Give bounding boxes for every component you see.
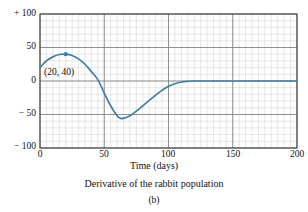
figure-panel: + 100 50 0 − 50 − 100 0 50 100 150 200 (… <box>0 0 308 212</box>
figure-subcaption: (b) <box>0 196 308 206</box>
x-tick-label-50: 50 <box>92 150 116 160</box>
x-tick-label-200: 200 <box>285 150 308 160</box>
x-tick-label-100: 100 <box>156 150 180 160</box>
y-tick-label-minus-50: − 50 <box>0 109 36 119</box>
annotation-point-marker <box>64 52 68 56</box>
y-tick-label-50: 50 <box>0 42 36 52</box>
x-axis-title: Time (days) <box>0 161 308 171</box>
annotation-marker-group <box>64 52 68 56</box>
figure-caption: Derivative of the rabbit population <box>0 179 308 189</box>
y-tick-label-0: 0 <box>0 76 36 86</box>
x-tick-label-150: 150 <box>221 150 245 160</box>
annotation-label-point: (20, 40) <box>44 68 74 78</box>
y-tick-label-100: + 100 <box>0 9 36 19</box>
x-tick-label-0: 0 <box>28 150 52 160</box>
